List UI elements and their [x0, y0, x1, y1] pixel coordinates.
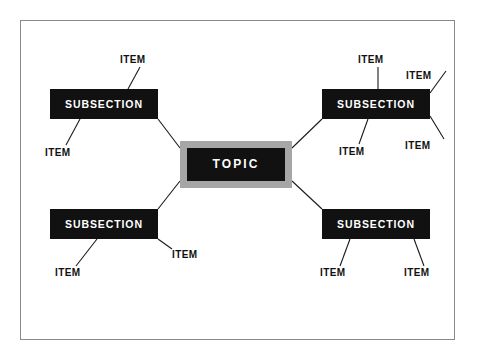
link-tl-item-2 — [66, 119, 80, 145]
link-tr-item-3 — [359, 119, 368, 144]
item-tl-1[interactable]: ITEM — [120, 54, 146, 66]
item-br-1[interactable]: ITEM — [320, 267, 346, 279]
item-tr-2[interactable]: ITEM — [406, 70, 432, 82]
link-topic-to-bottom-left — [158, 181, 180, 209]
subsection-bottom-left[interactable]: SUBSECTION — [50, 209, 158, 239]
subsection-top-right[interactable]: SUBSECTION — [322, 89, 430, 119]
link-tr-item-2 — [430, 71, 446, 93]
item-tl-2[interactable]: ITEM — [45, 147, 71, 159]
subsection-top-left[interactable]: SUBSECTION — [50, 89, 158, 119]
subsection-bottom-right[interactable]: SUBSECTION — [322, 209, 430, 239]
item-tr-4[interactable]: ITEM — [405, 140, 431, 152]
item-bl-1[interactable]: ITEM — [172, 249, 198, 261]
link-br-item-1 — [340, 239, 350, 266]
link-tl-item-1 — [128, 67, 140, 89]
link-br-item-2 — [414, 239, 424, 266]
link-topic-to-top-left — [158, 119, 180, 148]
link-bl-item-2 — [76, 239, 97, 266]
mind-map-diagram: TOPIC SUBSECTION SUBSECTION SUBSECTION S… — [0, 0, 480, 361]
item-bl-2[interactable]: ITEM — [55, 267, 81, 279]
link-bl-item-1 — [158, 239, 172, 249]
item-br-2[interactable]: ITEM — [404, 267, 430, 279]
link-topic-to-top-right — [292, 119, 322, 148]
link-tr-item-4 — [430, 116, 444, 139]
topic-label: TOPIC — [187, 148, 285, 181]
item-tr-3[interactable]: ITEM — [339, 146, 365, 158]
topic-node[interactable]: TOPIC — [180, 141, 292, 188]
link-topic-to-bottom-right — [292, 181, 322, 209]
item-tr-1[interactable]: ITEM — [358, 54, 384, 66]
